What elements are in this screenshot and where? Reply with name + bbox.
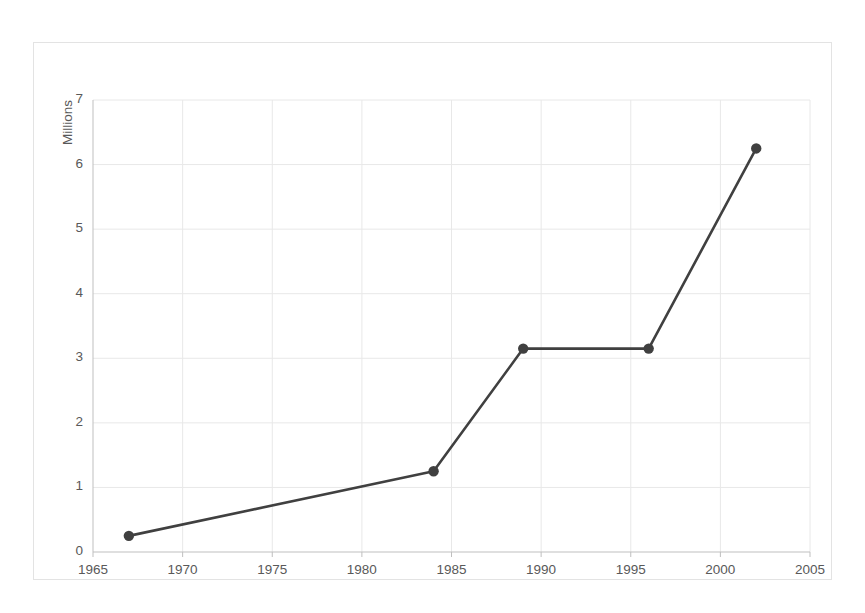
x-tick-marks-group (93, 552, 810, 557)
data-series-group (124, 143, 762, 541)
x-tick-label: 1970 (153, 562, 213, 577)
data-point-marker[interactable] (124, 531, 134, 541)
y-tick-label: 0 (43, 543, 83, 558)
y-tick-label: 1 (43, 478, 83, 493)
x-tick-label: 2005 (780, 562, 840, 577)
y-tick-label: 5 (43, 220, 83, 235)
plot-canvas (0, 0, 865, 613)
data-point-marker[interactable] (518, 343, 528, 353)
data-point-marker[interactable] (643, 343, 653, 353)
y-tick-label: 4 (43, 285, 83, 300)
data-point-marker[interactable] (428, 466, 438, 476)
y-axis-title: Millions (60, 100, 75, 145)
y-tick-label: 6 (43, 156, 83, 171)
x-tick-label: 1965 (63, 562, 123, 577)
x-tick-label: 1995 (601, 562, 661, 577)
y-tick-label: 7 (43, 91, 83, 106)
data-line (129, 148, 756, 535)
data-point-marker[interactable] (751, 143, 761, 153)
y-tick-label: 3 (43, 349, 83, 364)
x-tick-label: 1990 (511, 562, 571, 577)
x-tick-label: 1980 (332, 562, 392, 577)
y-tick-label: 2 (43, 414, 83, 429)
x-tick-label: 1985 (422, 562, 482, 577)
chart-container: Millions 01234567 1965197019751980198519… (0, 0, 865, 613)
x-tick-label: 1975 (242, 562, 302, 577)
gridlines-group (93, 100, 810, 552)
x-tick-label: 2000 (690, 562, 750, 577)
